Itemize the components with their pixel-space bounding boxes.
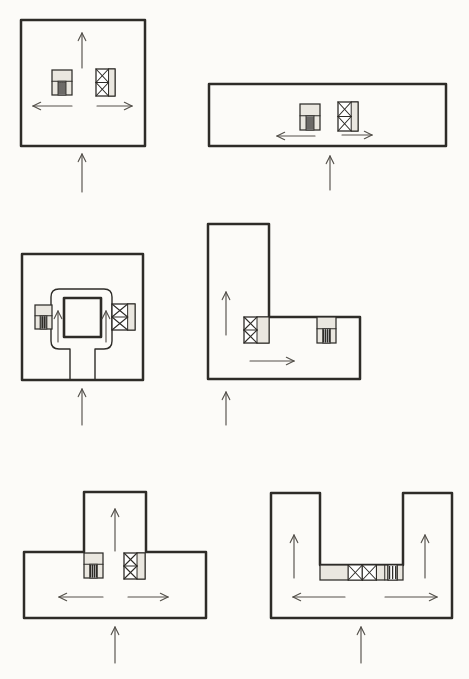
circulation-arrow [97, 102, 132, 110]
building-outline [21, 20, 145, 146]
building-circulation-diagrams [0, 0, 469, 679]
circulation-arrow [111, 509, 119, 551]
stair-core-symbol [35, 305, 52, 329]
entry-arrow [222, 392, 230, 425]
entry-arrow [357, 627, 365, 663]
building-outline [208, 224, 360, 379]
building-outline [209, 84, 446, 146]
circulation-arrow [54, 311, 62, 342]
corridor-ring [51, 289, 112, 379]
entry-arrow [78, 154, 86, 192]
circulation-arrow [222, 292, 230, 335]
elevator-core-symbol [338, 102, 358, 131]
stair-core-symbol [84, 553, 103, 578]
entry-arrow [111, 627, 119, 663]
circulation-arrow [78, 33, 86, 68]
square-plan [21, 20, 145, 192]
circulation-arrow [342, 131, 372, 139]
scanned-diagram-page [0, 0, 469, 679]
stair-core-symbol [52, 70, 72, 95]
circulation-arrow [33, 102, 72, 110]
circulation-arrow [250, 357, 294, 365]
elevator-core-symbol [244, 317, 269, 343]
circulation-arrow [59, 593, 103, 601]
entry-arrow [78, 389, 86, 425]
elevator-core-symbol [112, 304, 135, 330]
circulation-arrow [293, 593, 345, 601]
circulation-arrow [128, 593, 168, 601]
t-plan [24, 492, 206, 663]
circulation-arrow [385, 593, 437, 601]
courtyard-void [64, 298, 101, 337]
core-strip-symbol [320, 565, 403, 580]
courtyard-plan [22, 254, 143, 425]
stair-core-symbol [317, 317, 336, 343]
circulation-arrow [102, 311, 110, 342]
circulation-arrow [421, 535, 429, 578]
slab-plan [209, 84, 446, 190]
l-plan [208, 224, 360, 425]
stair-core-symbol [300, 104, 320, 130]
elevator-core-symbol [96, 69, 115, 96]
entry-arrow [326, 156, 334, 190]
elevator-core-symbol [124, 553, 145, 579]
u-plan [271, 493, 452, 663]
circulation-arrow [277, 132, 315, 140]
circulation-arrow [290, 535, 298, 578]
